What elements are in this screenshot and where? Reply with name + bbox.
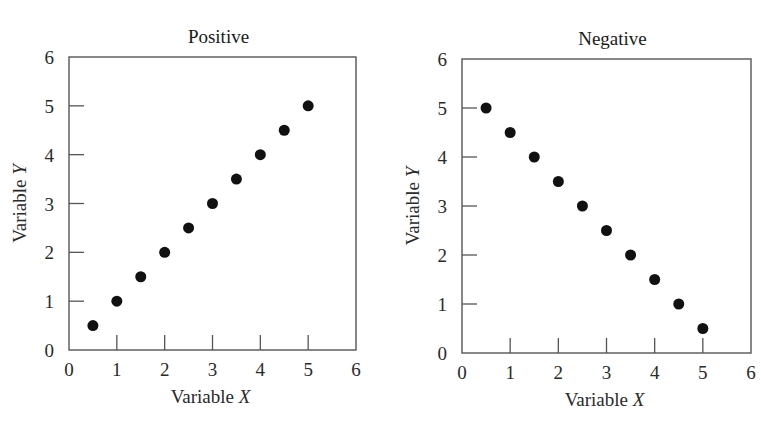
x-tick-label: 3 [602,362,612,383]
y-tick-label: 6 [438,49,448,70]
data-point [649,274,660,285]
y-tick-label: 4 [438,147,448,168]
x-axis-label: Variable X [565,389,646,410]
y-tick-label: 0 [438,343,448,364]
y-tick-label: 1 [438,294,448,315]
data-point [529,152,540,163]
y-tick-label: 5 [438,98,448,119]
y-tick-label: 2 [438,245,448,266]
data-point [553,176,564,187]
x-tick-label: 5 [698,362,708,383]
plot-frame [462,59,751,353]
x-tick-label: 2 [554,362,564,383]
x-tick-label: 0 [457,362,467,383]
data-point [577,201,588,212]
data-point [697,323,708,334]
x-tick-label: 6 [746,362,756,383]
y-tick-label: 3 [438,196,448,217]
data-point [481,103,492,114]
y-axis-label: Variable Y [402,164,423,245]
chart-title: Negative [578,28,647,49]
data-point [505,127,516,138]
x-tick-label: 4 [650,362,660,383]
data-point [625,250,636,261]
data-point [601,225,612,236]
data-point [673,299,684,310]
x-tick-label: 1 [505,362,515,383]
